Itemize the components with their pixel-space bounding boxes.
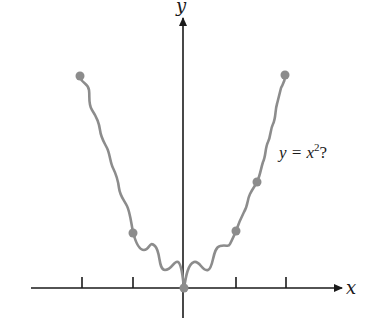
point-right-upper (253, 178, 262, 187)
curve-label: y = x2? (277, 141, 327, 162)
point-right-mid (232, 227, 241, 236)
point-origin (180, 284, 189, 293)
y-axis-label: y (175, 0, 187, 16)
x-axis-label: x (346, 277, 356, 298)
point-right-top (281, 71, 290, 80)
diagram-canvas: y x y = x2? (0, 0, 377, 327)
point-left-top (76, 72, 85, 81)
point-left-mid (129, 229, 138, 238)
